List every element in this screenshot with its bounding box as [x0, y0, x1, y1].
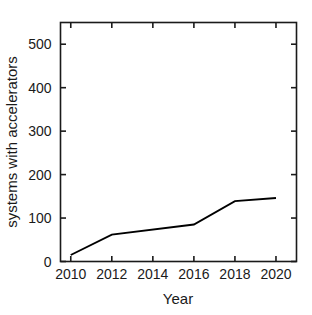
y-tick-label: 200: [28, 167, 52, 183]
x-axis-title: Year: [163, 290, 193, 307]
y-tick-label: 400: [28, 80, 52, 96]
y-tick-label: 0: [44, 254, 52, 270]
x-tick-label: 2016: [178, 266, 209, 282]
x-tick-label: 2014: [137, 266, 168, 282]
x-tick-label: 2020: [260, 266, 291, 282]
chart-figure: 0100200300400500 20102012201420162018202…: [0, 0, 312, 315]
y-axis-title: systems with accelerators: [3, 56, 20, 228]
y-tick-label: 500: [28, 36, 52, 52]
x-tick-label: 2018: [219, 266, 250, 282]
y-tick-label: 300: [28, 123, 52, 139]
y-tick-label: 100: [28, 210, 52, 226]
x-tick-label: 2012: [96, 266, 127, 282]
line-chart: 0100200300400500 20102012201420162018202…: [0, 0, 312, 315]
x-tick-label: 2010: [55, 266, 86, 282]
